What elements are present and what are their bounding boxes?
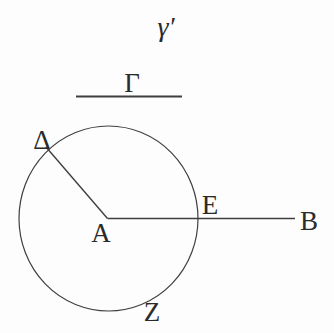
label-gamma-prime: γ′ (157, 11, 175, 42)
label-Delta: Δ (33, 125, 50, 155)
geometry-figure: γ′ Γ Δ A E B Z (0, 0, 334, 333)
radius-line-A-Delta (46, 147, 108, 219)
label-Gamma: Γ (124, 68, 140, 98)
label-A: A (91, 218, 111, 248)
label-E: E (202, 190, 219, 220)
label-B: B (300, 206, 318, 236)
label-Z: Z (144, 297, 161, 327)
diagram-page: γ′ Γ Δ A E B Z (0, 0, 334, 333)
